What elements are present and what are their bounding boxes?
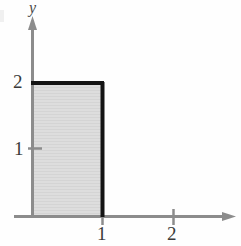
y-tick-label-2: 2 [13,72,23,91]
figure-container: y 2 1 1 2 [0,0,241,246]
x-tick-label-2: 2 [167,224,177,243]
shaded-region [32,82,103,216]
y-axis-label: y [29,0,36,16]
y-axis-arrowhead [28,16,37,30]
plot-canvas [0,0,241,246]
x-tick-label-1: 1 [97,224,107,243]
y-tick-label-1: 1 [14,139,24,158]
x-axis-arrowhead [222,212,236,221]
